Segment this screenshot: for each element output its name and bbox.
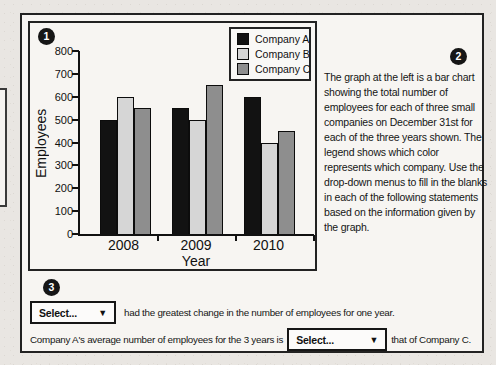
bar-company-c-2010: [278, 131, 295, 234]
y-tick-label: 700: [55, 68, 73, 79]
y-tick-label: 400: [55, 137, 73, 148]
company-select-dropdown[interactable]: Select... ▼: [30, 301, 116, 324]
y-tick: [72, 96, 79, 98]
statement-row-1: Select... ▼ had the greatest change in t…: [30, 301, 394, 324]
y-tick: [72, 233, 79, 235]
dropdown-value: Select...: [296, 334, 334, 346]
y-tick: [72, 210, 79, 212]
comparison-select-dropdown[interactable]: Select... ▼: [287, 328, 387, 351]
chevron-down-icon: ▼: [98, 308, 107, 318]
chart-panel: 1 Employees 0100200300400500600700800 20…: [28, 21, 317, 271]
legend-entries: Company ACompany BCompany C: [237, 33, 303, 75]
bar-company-c-2009: [206, 85, 223, 234]
legend-entry-company-a: Company A: [237, 33, 303, 45]
y-tick: [72, 119, 79, 121]
bar-company-a-2008: [100, 120, 117, 234]
chevron-down-icon: ▼: [369, 335, 378, 345]
y-tick-label: 800: [55, 46, 73, 57]
bar-group-2009: [170, 51, 224, 234]
legend-swatch: [237, 48, 249, 60]
bar-company-a-2010: [244, 97, 261, 234]
y-tick: [72, 50, 79, 52]
bar-company-b-2008: [117, 97, 134, 234]
legend-swatch: [237, 63, 249, 75]
legend-label: Company B: [255, 48, 310, 60]
cropped-box-fragment: [0, 88, 7, 207]
x-tick-label-2010: 2010: [242, 237, 296, 253]
bar-company-b-2010: [261, 143, 278, 235]
bar-group-2008: [98, 51, 152, 234]
legend-entry-company-b: Company B: [237, 48, 303, 60]
statement-2-suffix: that of Company C.: [391, 334, 471, 345]
statement-1-text: had the greatest change in the number of…: [124, 307, 394, 318]
step-badge-3: 3: [43, 279, 60, 296]
legend-entry-company-c: Company C: [237, 63, 303, 75]
legend-swatch: [237, 33, 249, 45]
statement-2-prefix: Company A's average number of employees …: [30, 334, 283, 345]
legend: Company ACompany BCompany C: [229, 27, 311, 81]
x-tick-label-2009: 2009: [169, 237, 223, 253]
bar-company-a-2009: [172, 108, 189, 234]
legend-label: Company A: [255, 33, 309, 45]
legend-label: Company C: [255, 63, 310, 75]
y-tick-label: 500: [55, 114, 73, 125]
y-tick-label: 100: [55, 206, 73, 217]
y-tick: [72, 187, 79, 189]
bar-company-b-2009: [189, 120, 206, 234]
step-badge-1: 1: [38, 28, 55, 45]
bar-company-c-2008: [134, 108, 151, 234]
x-tick-label-2008: 2008: [97, 237, 151, 253]
y-tick-label: 300: [55, 160, 73, 171]
y-tick-label: 600: [55, 91, 73, 102]
description-text: The graph at the left is a bar chart sho…: [324, 70, 488, 235]
applet-frame: 1 Employees 0100200300400500600700800 20…: [20, 13, 484, 353]
y-tick-label: 200: [55, 183, 73, 194]
statement-row-2: Company A's average number of employees …: [30, 328, 471, 351]
x-axis-title: Year: [78, 254, 314, 268]
y-tick: [72, 73, 79, 75]
y-axis-title: Employees: [32, 51, 49, 235]
x-axis-labels: 200820092010: [78, 237, 314, 253]
y-tick: [72, 142, 79, 144]
step-badge-2: 2: [450, 48, 467, 65]
y-tick: [72, 164, 79, 166]
dropdown-value: Select...: [39, 307, 77, 319]
